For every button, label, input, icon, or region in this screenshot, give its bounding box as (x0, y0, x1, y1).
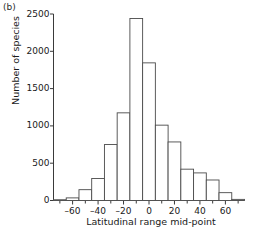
histogram-bar (130, 18, 143, 200)
histogram-bar (232, 199, 245, 200)
x-tick-label: –60 (60, 207, 86, 216)
histogram-bar (194, 173, 207, 201)
x-tick-label: 60 (212, 207, 238, 216)
histogram-bar (66, 198, 79, 201)
x-tick-label: 40 (187, 207, 213, 216)
y-tick-label: 2500 (16, 10, 50, 19)
histogram-bar (206, 180, 219, 201)
y-tick-label: 0 (16, 196, 50, 205)
y-tick-label: 2000 (16, 47, 50, 56)
histogram-bar (54, 200, 67, 201)
histogram-bar (143, 63, 156, 201)
x-tick-label: –20 (111, 207, 137, 216)
y-tick-label: 1500 (16, 84, 50, 93)
y-tick-label: 1000 (16, 121, 50, 130)
figure-panel: (b) Number of species Latitudinal range … (0, 0, 258, 230)
histogram-bar (117, 113, 130, 201)
histogram-bar (104, 145, 117, 201)
histogram-bar (155, 125, 168, 200)
histogram-bar (168, 142, 181, 201)
histogram-bar (219, 193, 232, 201)
y-tick-label: 500 (16, 159, 50, 168)
histogram-bar (181, 169, 194, 200)
x-tick-label: 0 (136, 207, 162, 216)
x-tick-label: –40 (85, 207, 111, 216)
histogram-bar (92, 178, 105, 200)
histogram-bar (79, 190, 92, 201)
x-tick-label: 20 (161, 207, 187, 216)
